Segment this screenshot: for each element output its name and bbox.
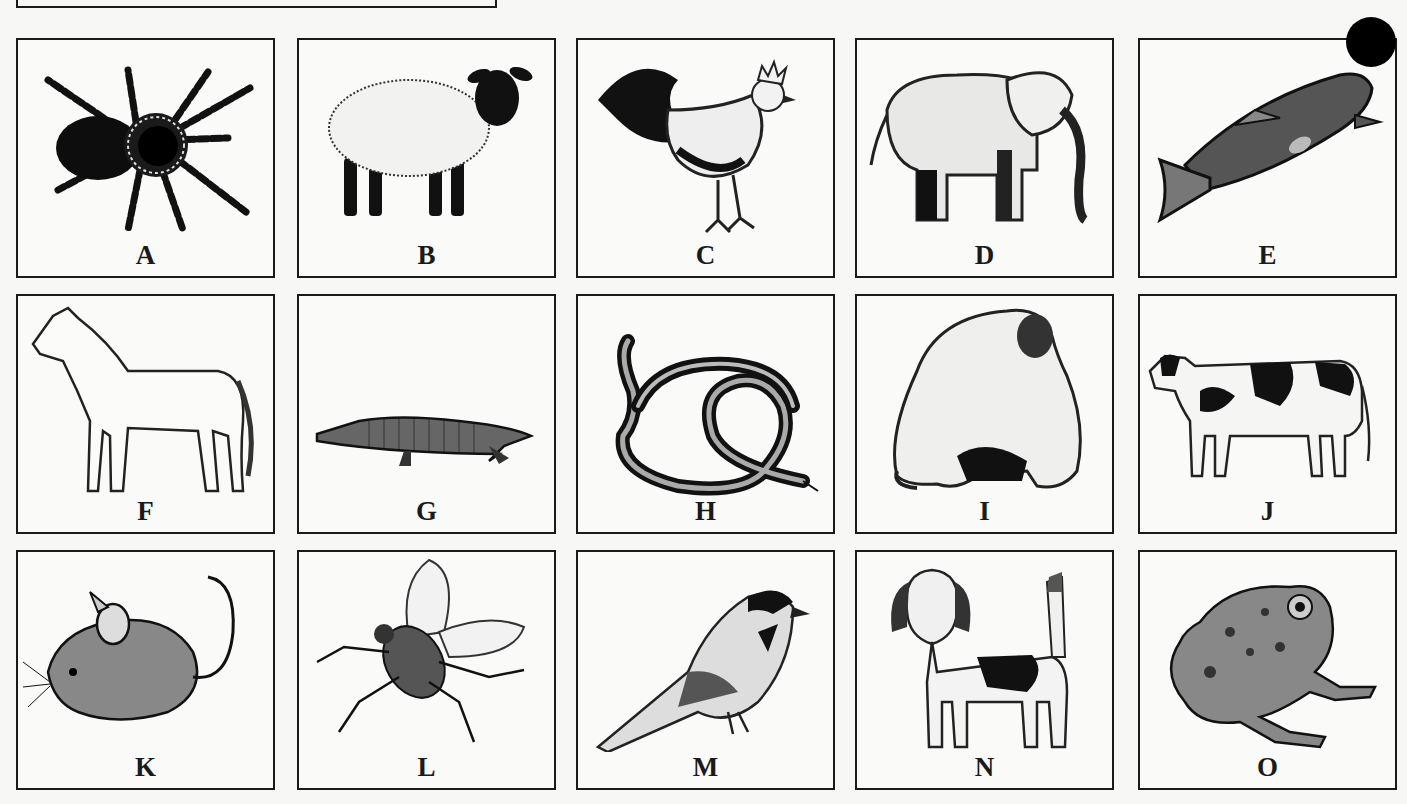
snake-icon bbox=[578, 296, 833, 496]
rooster-icon bbox=[578, 40, 833, 240]
cow-icon bbox=[1140, 296, 1395, 496]
fly-icon bbox=[299, 552, 554, 752]
card-h[interactable]: H bbox=[576, 294, 835, 534]
chickadee-icon bbox=[578, 552, 833, 752]
card-label: C bbox=[578, 240, 833, 270]
card-label: J bbox=[1140, 496, 1395, 526]
card-label: K bbox=[18, 752, 273, 782]
sheep-icon bbox=[299, 40, 554, 240]
card-m[interactable]: M bbox=[576, 550, 835, 790]
card-label: N bbox=[857, 752, 1112, 782]
card-label: F bbox=[18, 496, 273, 526]
card-label: O bbox=[1140, 752, 1395, 782]
card-j[interactable]: J bbox=[1138, 294, 1397, 534]
card-label: I bbox=[857, 496, 1112, 526]
gorilla-icon bbox=[857, 296, 1112, 496]
corner-marker-dot bbox=[1346, 17, 1396, 67]
tarantula-icon bbox=[18, 40, 273, 240]
card-label: A bbox=[18, 240, 273, 270]
card-f[interactable]: F bbox=[16, 294, 275, 534]
beagle-icon bbox=[857, 552, 1112, 752]
card-label: H bbox=[578, 496, 833, 526]
header-box bbox=[16, 0, 497, 8]
card-b[interactable]: B bbox=[297, 38, 556, 278]
horse-icon bbox=[18, 296, 273, 496]
trout-icon bbox=[1140, 40, 1395, 240]
elephant-icon bbox=[857, 40, 1112, 240]
card-l[interactable]: L bbox=[297, 550, 556, 790]
card-label: L bbox=[299, 752, 554, 782]
card-g[interactable]: G bbox=[297, 294, 556, 534]
card-label: G bbox=[299, 496, 554, 526]
card-d[interactable]: D bbox=[855, 38, 1114, 278]
frog-icon bbox=[1140, 552, 1395, 752]
card-a[interactable]: A bbox=[16, 38, 275, 278]
card-o[interactable]: O bbox=[1138, 550, 1397, 790]
card-i[interactable]: I bbox=[855, 294, 1114, 534]
mouse-icon bbox=[18, 552, 273, 752]
card-e[interactable]: E bbox=[1138, 38, 1397, 278]
card-k[interactable]: K bbox=[16, 550, 275, 790]
card-label: E bbox=[1140, 240, 1395, 270]
card-n[interactable]: N bbox=[855, 550, 1114, 790]
alligator-icon bbox=[299, 296, 554, 496]
card-label: M bbox=[578, 752, 833, 782]
card-label: B bbox=[299, 240, 554, 270]
card-c[interactable]: C bbox=[576, 38, 835, 278]
card-label: D bbox=[857, 240, 1112, 270]
